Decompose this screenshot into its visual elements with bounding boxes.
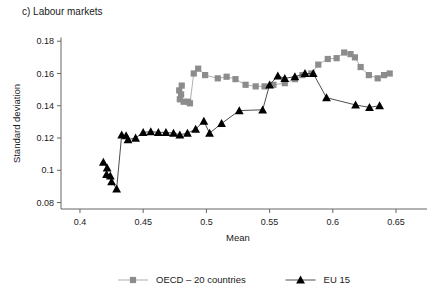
- data-point-triangle: [131, 134, 140, 142]
- data-point-triangle: [322, 93, 331, 101]
- legend-item[interactable]: OECD – 20 countries: [118, 274, 246, 285]
- data-point-square: [187, 100, 193, 106]
- x-tick-label: 0.55: [261, 217, 279, 227]
- data-point-square: [334, 55, 340, 61]
- data-point-square: [358, 64, 364, 70]
- data-point-triangle: [183, 129, 192, 137]
- data-point-square: [325, 56, 331, 62]
- data-point-triangle: [205, 129, 214, 137]
- data-point-triangle: [146, 127, 155, 135]
- data-point-square: [215, 75, 221, 81]
- data-point-square: [195, 66, 201, 72]
- y-tick-label: 0.1: [41, 165, 54, 175]
- data-point-square: [232, 76, 238, 82]
- data-point-triangle: [273, 72, 282, 80]
- data-point-square: [253, 83, 259, 89]
- data-point-triangle: [258, 105, 267, 113]
- scatter-plot: 0.080.10.120.140.160.180.40.450.50.550.6…: [0, 0, 447, 300]
- legend-label: OECD – 20 countries: [156, 274, 246, 285]
- data-point-square: [366, 72, 372, 78]
- y-tick-label: 0.18: [36, 36, 54, 46]
- legend-label: EU 15: [324, 274, 350, 285]
- data-point-triangle: [217, 119, 226, 127]
- data-point-square: [352, 54, 358, 60]
- y-tick-label: 0.12: [36, 133, 54, 143]
- legend-marker-square: [130, 277, 136, 283]
- x-axis-title: Mean: [226, 232, 250, 243]
- data-point-square: [341, 49, 347, 55]
- y-tick-label: 0.08: [36, 198, 54, 208]
- data-point-triangle: [199, 117, 208, 125]
- data-point-square: [387, 70, 393, 76]
- data-point-square: [242, 82, 248, 88]
- data-point-triangle: [112, 184, 121, 192]
- y-tick-label: 0.14: [36, 101, 54, 111]
- data-point-triangle: [375, 101, 384, 109]
- x-tick-label: 0.65: [387, 217, 405, 227]
- data-point-triangle: [99, 158, 108, 166]
- x-tick-label: 0.45: [134, 217, 152, 227]
- data-point-square: [315, 62, 321, 68]
- chart-figure: c) Labour markets 0.080.10.120.140.160.1…: [0, 0, 447, 300]
- data-point-square: [202, 72, 208, 78]
- legend-item[interactable]: EU 15: [286, 274, 350, 285]
- y-tick-label: 0.16: [36, 69, 54, 79]
- y-axis-title: Standard deviation: [11, 84, 22, 163]
- data-point-square: [381, 72, 387, 78]
- x-tick-label: 0.4: [74, 217, 87, 227]
- data-point-square: [375, 75, 381, 81]
- x-tick-label: 0.6: [327, 217, 340, 227]
- x-tick-label: 0.5: [200, 217, 213, 227]
- data-point-square: [224, 74, 230, 80]
